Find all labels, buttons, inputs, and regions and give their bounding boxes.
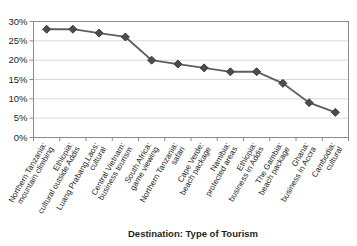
y-axis-label: 10% [8,93,28,104]
data-series [43,25,340,116]
data-point-marker [174,60,182,68]
data-point-marker [43,25,51,33]
data-point-marker [253,68,261,76]
y-axis-label: 0% [14,132,28,143]
y-axis-label: 25% [8,35,28,46]
tourism-line-chart: 0%5%10%15%20%25%30% Northern Tanzania:mo… [0,0,357,246]
data-point-marker [331,108,339,116]
y-axis-label: 15% [8,74,28,85]
y-axis-label: 20% [8,54,28,65]
y-axis-label: 30% [8,16,28,27]
data-point-marker [95,29,103,37]
axes-and-ticks [30,22,349,142]
data-point-marker [226,68,234,76]
x-axis-category-label: Cambodia:cultural [310,141,344,183]
series-line [47,29,336,112]
x-axis-category-labels: Northern Tanzania:mountain climbingEthio… [7,141,345,216]
x-axis-title: Destination: Type of Tourism [128,228,258,239]
data-point-marker [69,25,77,33]
y-axis-label: 5% [14,112,28,123]
y-axis-tick-labels: 0%5%10%15%20%25%30% [8,16,28,143]
chart-canvas: 0%5%10%15%20%25%30% Northern Tanzania:mo… [0,0,357,246]
data-point-marker [200,64,208,72]
gridlines [34,41,349,118]
